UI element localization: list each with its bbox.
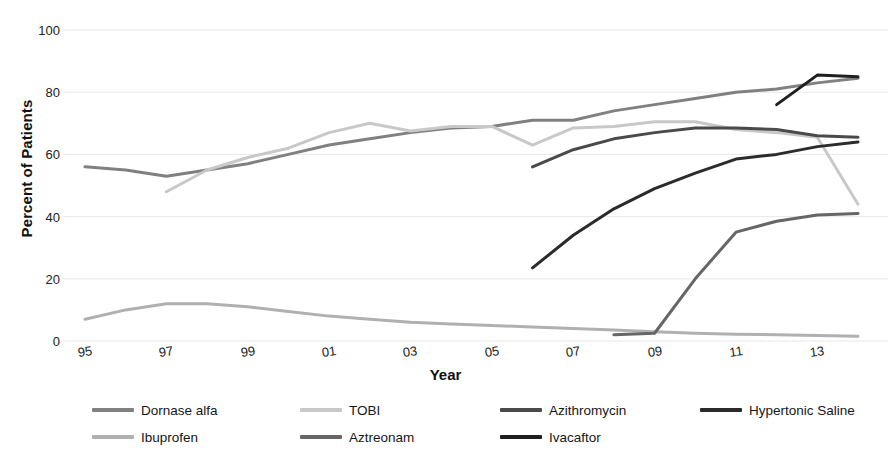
legend-item[interactable]: Hypertonic Saline <box>700 400 855 420</box>
legend-color-swatch <box>92 408 134 412</box>
legend-label: Azithromycin <box>549 403 626 418</box>
x-tick-label: 99 <box>240 343 256 360</box>
legend-label: TOBI <box>349 403 380 418</box>
x-tick-label: 95 <box>77 343 93 360</box>
series-line-tobi <box>166 122 858 204</box>
legend-item[interactable]: Azithromycin <box>500 400 626 420</box>
gridlines <box>63 30 888 341</box>
legend-color-swatch <box>300 408 342 412</box>
legend-item[interactable]: Dornase alfa <box>92 400 218 420</box>
x-tick-label: 13 <box>809 343 825 360</box>
x-tick-label: 05 <box>484 343 500 360</box>
legend-color-swatch <box>92 435 134 439</box>
legend-color-swatch <box>300 435 342 439</box>
legend-label: Hypertonic Saline <box>749 403 855 418</box>
x-tick-label: 07 <box>565 343 581 360</box>
x-tick-label: 97 <box>158 343 174 360</box>
legend-label: Aztreonam <box>349 430 414 445</box>
x-tick-label: 09 <box>646 343 662 360</box>
legend-item[interactable]: TOBI <box>300 400 380 420</box>
series-lines <box>85 75 858 336</box>
legend-color-swatch <box>500 408 542 412</box>
legend-item[interactable]: Aztreonam <box>300 427 414 447</box>
legend-color-swatch <box>700 408 742 412</box>
x-tick-label: 11 <box>728 343 743 360</box>
x-tick-label: 01 <box>321 343 337 360</box>
series-line-ibuprofen <box>85 304 858 337</box>
legend-label: Ibuprofen <box>141 430 198 445</box>
chart-legend: Dornase alfaTOBIAzithromycinHypertonic S… <box>92 400 882 454</box>
legend-item[interactable]: Ibuprofen <box>92 427 198 447</box>
legend-item[interactable]: Ivacaftor <box>500 427 601 447</box>
series-line-aztreonam <box>614 213 858 334</box>
series-line-hypertonic-saline <box>533 142 858 268</box>
x-tick-label: 03 <box>402 343 418 360</box>
legend-label: Dornase alfa <box>141 403 218 418</box>
legend-label: Ivacaftor <box>549 430 601 445</box>
legend-color-swatch <box>500 435 542 439</box>
x-axis-title: Year <box>0 366 891 383</box>
line-chart: Percent of Patients 100806040200 9597990… <box>0 0 891 460</box>
plot-area <box>0 0 891 460</box>
